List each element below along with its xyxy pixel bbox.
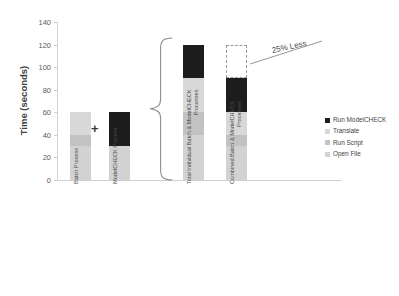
legend-label: Run ModelCHECK	[333, 116, 386, 124]
x-axis-line	[57, 180, 342, 181]
y-tick-80: 80	[43, 85, 51, 94]
y-tick-100: 100	[38, 63, 51, 72]
legend-item-run-script[interactable]: Run Script	[325, 139, 399, 147]
legend-swatch-icon	[325, 118, 330, 123]
y-tick-mark	[54, 135, 57, 136]
y-axis-line	[57, 22, 58, 180]
plus-operator: +	[91, 122, 99, 135]
y-tick-120: 120	[38, 40, 51, 49]
ghost-savings-box	[226, 45, 247, 79]
legend-swatch-icon	[325, 129, 330, 134]
x-label-batch-process: Batch Process	[73, 148, 80, 184]
y-tick-mark	[54, 22, 57, 23]
group-brace-icon	[148, 36, 174, 182]
x-label-line2: Processes	[193, 89, 200, 184]
x-label-line1: Batch Process	[73, 148, 79, 184]
x-label-total-individual: Total Individual Batch & ModelCHECK Proc…	[186, 89, 199, 184]
y-tick-mark	[54, 157, 57, 158]
y-tick-40: 40	[43, 130, 51, 139]
legend-label: Open File	[333, 150, 361, 158]
legend-swatch-icon	[325, 140, 330, 145]
y-tick-mark	[54, 90, 57, 91]
y-tick-0: 0	[47, 176, 51, 185]
y-tick-mark	[54, 45, 57, 46]
x-label-line1: ModelCHECK Process	[112, 127, 118, 184]
x-label-line1: Combined Batch & ModelCHECK	[229, 101, 235, 184]
y-tick-20: 20	[43, 153, 51, 162]
bar-segment-translate	[70, 112, 91, 135]
legend-label: Run Script	[333, 139, 363, 147]
y-tick-140: 140	[38, 18, 51, 27]
x-label-line2: Processes	[236, 101, 243, 184]
y-axis-title: Time (seconds)	[18, 31, 29, 171]
legend-label: Translate	[333, 127, 359, 135]
bar-segment-run-modelcheck	[183, 45, 204, 79]
bar-segment-run-script	[70, 135, 91, 146]
y-tick-mark	[54, 67, 57, 68]
y-tick-60: 60	[43, 108, 51, 117]
x-label-modelcheck-process: ModelCHECK Process	[112, 127, 119, 184]
legend-item-run-modelcheck[interactable]: Run ModelCHECK	[325, 116, 399, 124]
x-label-combined: Combined Batch & ModelCHECK Processes	[229, 101, 242, 184]
legend-item-open-file[interactable]: Open File	[325, 150, 399, 158]
legend-item-translate[interactable]: Translate	[325, 127, 399, 135]
y-tick-mark	[54, 112, 57, 113]
bar-chart: Time (seconds) 140 120 100 80 60 40 20 0	[0, 0, 399, 296]
legend-swatch-icon	[325, 152, 330, 157]
x-label-line1: Total Individual Batch & ModelCHECK	[186, 89, 192, 184]
y-tick-mark	[54, 180, 57, 181]
legend: Run ModelCHECK Translate Run Script Open…	[325, 116, 399, 162]
